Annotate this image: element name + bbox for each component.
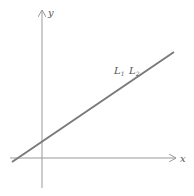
x-axis-label: x xyxy=(180,153,186,164)
line-label-l2: L2 xyxy=(128,65,140,77)
line-l1-l2 xyxy=(12,52,174,162)
line-label-l1: L1 xyxy=(113,65,124,77)
coordinate-diagram: x y L1 L2 xyxy=(0,0,194,196)
y-axis-label: y xyxy=(47,7,54,18)
